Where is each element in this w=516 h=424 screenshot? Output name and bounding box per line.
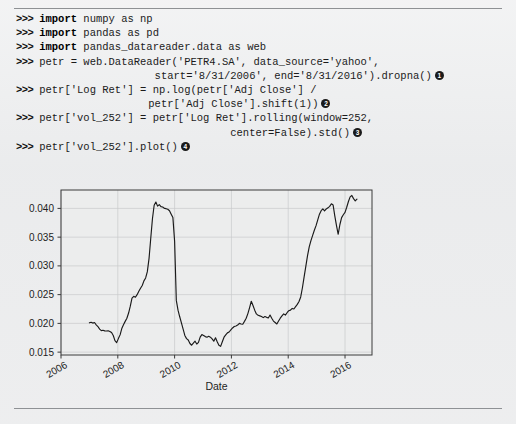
python-prompt: >>>: [16, 84, 39, 96]
bottom-divider-rule: [14, 408, 502, 409]
top-divider-rule: [14, 8, 502, 9]
code-text: numpy as np: [77, 13, 153, 25]
code-line: >>> import pandas_datareader.data as web: [16, 40, 506, 54]
python-prompt: >>>: [16, 56, 39, 68]
code-line: petr['Adj Close'].shift(1))2: [16, 97, 506, 111]
code-text: petr['vol_252'].plot(): [39, 141, 178, 153]
python-prompt: >>>: [16, 41, 39, 53]
code-callout-marker: 1: [435, 71, 444, 80]
y-axis-tick-label: 0.030: [29, 260, 54, 271]
y-axis-tick-label: 0.020: [29, 318, 54, 329]
x-axis-title: Date: [205, 380, 227, 392]
y-axis-tick-label: 0.015: [29, 347, 54, 358]
code-callout-marker: 4: [181, 142, 190, 151]
code-line: start='8/31/2006', end='8/31/2016').drop…: [16, 69, 506, 83]
code-keyword: import: [39, 41, 77, 53]
code-line: >>> petr = web.DataReader('PETR4.SA', da…: [16, 55, 506, 69]
volatility-line-chart: 0.0150.0200.0250.0300.0350.0402006200820…: [0, 176, 400, 398]
code-text: petr['Adj Close'].shift(1)): [16, 98, 318, 110]
code-text: petr['vol_252'] = petr['Log Ret'].rollin…: [39, 112, 373, 124]
page-canvas: >>> import numpy as np>>> import pandas …: [0, 0, 516, 424]
code-listing: >>> import numpy as np>>> import pandas …: [16, 12, 506, 154]
x-axis-tick-label: 2014: [271, 359, 296, 380]
y-axis-tick-label: 0.025: [29, 289, 54, 300]
code-line: >>> import pandas as pd: [16, 26, 506, 40]
code-text: start='8/31/2006', end='8/31/2016').drop…: [16, 70, 432, 82]
x-axis-tick-label: 2006: [44, 359, 69, 380]
code-callout-marker: 2: [321, 99, 330, 108]
python-prompt: >>>: [16, 13, 39, 25]
code-keyword: import: [39, 27, 77, 39]
python-prompt: >>>: [16, 27, 39, 39]
code-line: center=False).std()3: [16, 126, 506, 140]
x-axis-tick-label: 2010: [158, 359, 183, 380]
code-keyword: import: [39, 13, 77, 25]
code-line: >>> petr['Log Ret'] = np.log(petr['Adj C…: [16, 83, 506, 97]
y-axis-tick-label: 0.035: [29, 232, 54, 243]
python-prompt: >>>: [16, 112, 39, 124]
code-line: >>> import numpy as np: [16, 12, 506, 26]
code-text: center=False).std(): [16, 127, 350, 139]
python-prompt: >>>: [16, 141, 39, 153]
code-callout-marker: 3: [353, 128, 362, 137]
code-line: >>> petr['vol_252'] = petr['Log Ret'].ro…: [16, 111, 506, 125]
x-axis-tick-label: 2016: [328, 359, 353, 380]
code-text: petr['Log Ret'] = np.log(petr['Adj Close…: [39, 84, 316, 96]
matplotlib-figure: 0.0150.0200.0250.0300.0350.0402006200820…: [0, 176, 400, 398]
code-text: pandas as pd: [77, 27, 159, 39]
x-axis-tick-label: 2012: [215, 359, 240, 380]
x-axis-tick-label: 2008: [101, 359, 126, 380]
code-text: pandas_datareader.data as web: [77, 41, 266, 53]
code-text: petr = web.DataReader('PETR4.SA', data_s…: [39, 56, 379, 68]
y-axis-tick-label: 0.040: [29, 203, 54, 214]
code-line: >>> petr['vol_252'].plot()4: [16, 140, 506, 154]
